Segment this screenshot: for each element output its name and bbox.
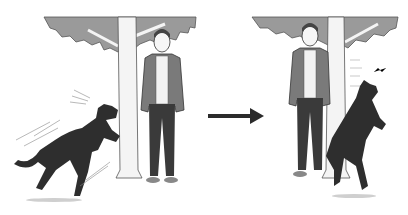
man-left	[141, 29, 184, 183]
man-right	[289, 23, 330, 177]
right-panel	[252, 17, 398, 198]
tree-canopy-right	[252, 17, 398, 48]
right-arrow-icon	[208, 108, 264, 124]
left-panel	[14, 17, 196, 202]
illustration: Two-panel illustration: a dog barks and …	[0, 0, 408, 215]
illustration-canvas	[0, 0, 408, 215]
dog-barking	[14, 90, 120, 202]
